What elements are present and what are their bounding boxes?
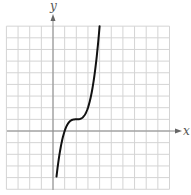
- x-axis-label: x: [183, 124, 190, 138]
- x-axis-arrow-icon: [175, 129, 182, 134]
- chart: x y: [0, 0, 191, 195]
- y-axis-label: y: [49, 0, 57, 13]
- y-axis-arrow-icon: [51, 14, 56, 21]
